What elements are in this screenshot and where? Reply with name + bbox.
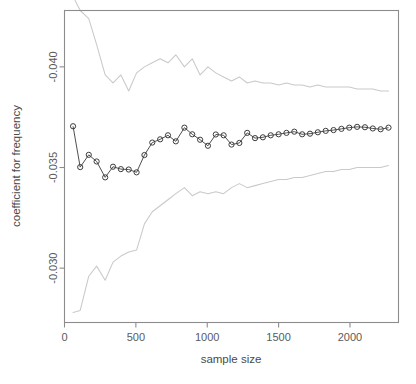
x-tick-label: 2000 — [338, 331, 362, 343]
y-tick-label: -0.035 — [47, 152, 59, 183]
x-tick-label: 1500 — [266, 331, 290, 343]
x-tick-label: 500 — [127, 331, 145, 343]
chart-figure: 0500100015002000 -0.040-0.035-0.030 samp… — [0, 0, 416, 384]
y-axis-title: coefficient for frequency — [10, 105, 22, 227]
y-tick-label: -0.040 — [47, 51, 59, 82]
x-axis-title: sample size — [201, 353, 262, 365]
x-tick-label: 1000 — [195, 331, 219, 343]
y-tick-label: -0.030 — [47, 253, 59, 284]
plot-background — [0, 0, 416, 384]
coefficient-vs-sample-size-plot: 0500100015002000 -0.040-0.035-0.030 samp… — [0, 0, 416, 384]
x-tick-label: 0 — [61, 331, 67, 343]
